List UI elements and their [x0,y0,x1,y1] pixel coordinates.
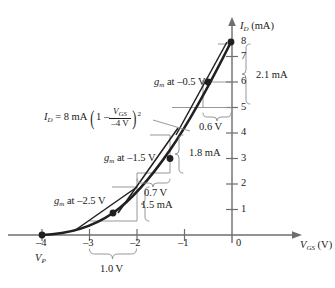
y-tick-label-3: 3 [241,153,246,164]
gm-25-rest: at –2.5 V [64,195,105,206]
delta-voltage-label-1.0V: 1.0 V [100,264,123,275]
y-axis-title: ID (mA) [240,21,274,33]
gm-05-rest: at –0.5 V [164,76,205,87]
marker-gm--2.5V [110,210,117,217]
equation-close-paren: ) [132,108,136,128]
delta-current-label-1.8mA: 1.8 mA [189,148,221,159]
transfer-equation: ID = 8 mA (1 –VGS–4 V)2 [44,107,141,129]
x-axis-title: VGS (V) [300,240,332,252]
axis-arrowheads [228,17,302,239]
y-tick-label-6: 6 [241,76,246,87]
marker-idss [228,39,235,46]
x-tick-label-0: 0 [236,238,241,249]
equation-num-sub: GS [118,110,127,118]
equation-lhs-sub: D [48,116,53,124]
y-axis-title-unit: (mA) [249,20,274,31]
equation-eq-sign: = 8 mA [55,111,87,122]
y-axis-arrow [228,17,236,26]
delta-current-label-1.5mA: 1.5 mA [141,200,173,211]
equation-open-paren: ( [91,108,95,128]
y-tick-label-8: 8 [241,36,246,47]
equation-one-minus: 1 – [96,111,109,122]
x-tick-label--4: –4 [36,238,47,249]
x-tick-label--1: –1 [178,238,189,249]
x-tick-label--2: –2 [130,238,141,249]
jfet-transfer-characteristic-figure: ID (mA) VGS (V) –4 –3 –2 –1 0 1 2 3 4 5 … [0,0,335,288]
brace-1.0V [90,249,137,259]
gm-15-rest: at –1.5 V [114,152,155,163]
tangent-at--2.5V [74,187,137,231]
chart-canvas [0,0,335,288]
x-axis-title-unit: (V) [315,239,332,250]
x-tick-label--3: –3 [83,238,94,249]
y-tick-label-7: 7 [241,51,246,62]
vp-sub: P [41,257,45,265]
pinch-off-voltage-label: VP [35,253,46,265]
x-axis-title-sub: GS [306,244,315,252]
y-tick-label-2: 2 [241,178,246,189]
equation-fraction: VGS–4 V [109,107,131,129]
delta-voltage-label-0.7V: 0.7 V [144,188,167,199]
delta-voltage-label-0.6V: 0.6 V [199,122,222,133]
y-tick-label-5: 5 [241,102,246,113]
gm-label--2.5V: gm at –2.5 V [54,196,106,208]
y-tick-label-1: 1 [241,204,246,215]
equation-exponent: 2 [137,110,141,118]
brace-0.6V [203,113,231,121]
y-tick-label-4: 4 [241,127,246,138]
gm-label--0.5V: gm at –0.5 V [154,77,206,89]
delta-current-label-2.1mA: 2.1 mA [256,70,288,81]
gm-label--1.5V: gm at –1.5 V [104,153,156,165]
data-point-markers [39,39,235,239]
equation-fraction-denominator: –4 V [109,119,131,128]
x-axis-arrow [292,231,302,239]
marker-gm--1.5V [167,155,174,162]
